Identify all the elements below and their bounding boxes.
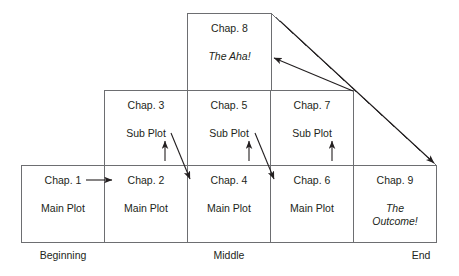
- cell-subtitle: Sub Plot: [209, 127, 249, 140]
- cell-chap-9: Chap. 9 The Outcome!: [353, 165, 437, 243]
- cell-title: Chap. 4: [211, 174, 248, 187]
- cell-chap-4: Chap. 4 Main Plot: [187, 165, 271, 243]
- cell-subtitle: Sub Plot: [292, 127, 332, 140]
- cell-subtitle: The Aha!: [208, 50, 250, 63]
- cell-chap-3: Chap. 3 Sub Plot: [104, 90, 188, 166]
- cell-subtitle: Main Plot: [41, 202, 85, 215]
- cell-chap-1: Chap. 1 Main Plot: [21, 165, 105, 243]
- cell-chap-6: Chap. 6 Main Plot: [270, 165, 354, 243]
- cell-subtitle: The Outcome!: [364, 202, 426, 228]
- cell-subtitle: Main Plot: [124, 202, 168, 215]
- axis-label-middle: Middle: [214, 249, 245, 262]
- cell-title: Chap. 2: [128, 174, 165, 187]
- cell-chap-8: Chap. 8 The Aha!: [187, 13, 272, 91]
- axis-label-end: End: [412, 249, 431, 262]
- cell-subtitle: Main Plot: [207, 202, 251, 215]
- diagram-canvas: Chap. 8 The Aha! Chap. 3 Sub Plot Chap. …: [0, 0, 459, 276]
- arrow-chap7-to-chap8: [274, 58, 353, 91]
- cell-title: Chap. 7: [294, 99, 331, 112]
- cell-title: Chap. 1: [45, 174, 82, 187]
- cell-title: Chap. 3: [128, 99, 165, 112]
- cell-title: Chap. 8: [211, 22, 248, 35]
- cell-title: Chap. 9: [377, 174, 414, 187]
- cell-title: Chap. 6: [294, 174, 331, 187]
- cell-subtitle: Sub Plot: [126, 127, 166, 140]
- cell-title: Chap. 5: [211, 99, 248, 112]
- axis-label-beginning: Beginning: [40, 249, 87, 262]
- cell-chap-7: Chap. 7 Sub Plot: [270, 90, 354, 166]
- cell-chap-2: Chap. 2 Main Plot: [104, 165, 188, 243]
- cell-chap-5: Chap. 5 Sub Plot: [187, 90, 271, 166]
- cell-subtitle: Main Plot: [290, 202, 334, 215]
